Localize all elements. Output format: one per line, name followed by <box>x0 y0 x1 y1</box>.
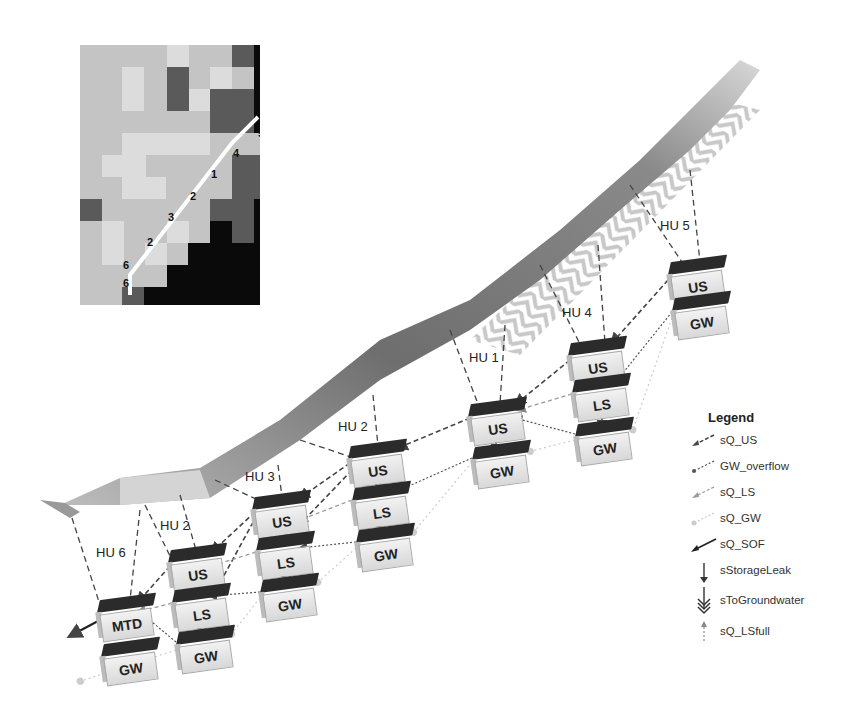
hydrologic-unit-label: HU 2 <box>160 518 190 533</box>
hydrology-diagram: 554123266 <box>0 0 844 702</box>
dotted-up-arrow-icon <box>688 619 718 643</box>
legend-item-sq-us: sQ_US <box>700 431 840 453</box>
storage-box-hu2a-gw: GW <box>176 632 232 668</box>
box-label: GW <box>277 595 303 614</box>
gray-dashed-arrow-icon <box>688 483 718 503</box>
storage-box-hu3-us: US <box>252 497 308 533</box>
box-label: GW <box>118 659 144 678</box>
legend: Legend sQ_US GW_overflow sQ_LS sQ_GW sQ_… <box>700 410 840 645</box>
storage-box-hu2b-gw: GW <box>356 530 412 566</box>
box-label: MTD <box>111 615 143 635</box>
storage-box-hu2b-us: US <box>348 446 404 482</box>
hydrologic-unit-label: HU 4 <box>562 305 592 320</box>
box-label: GW <box>592 439 618 458</box>
legend-item-sq-lsfull: sQ_LSfull <box>700 619 840 641</box>
dashed-arrow-icon <box>688 431 718 451</box>
storage-box-hu2a-us: US <box>168 550 224 586</box>
legend-item-sq-ls: sQ_LS <box>700 483 840 505</box>
legend-item-to-groundwater: sToGroundwater <box>700 587 840 615</box>
box-label: LS <box>276 554 296 572</box>
box-label: GW <box>689 313 715 332</box>
hydrologic-unit-label: HU 1 <box>469 350 499 365</box>
legend-item-sq-gw: sQ_GW <box>700 509 840 531</box>
storage-box-hu2a-ls: LS <box>172 590 228 626</box>
box-label: LS <box>372 504 392 522</box>
legend-item-gw-overflow: GW_overflow <box>700 457 840 479</box>
storage-box-hu5-gw: GW <box>672 298 728 334</box>
storage-box-hu3-ls: LS <box>256 538 312 574</box>
storage-box-hu4-gw: GW <box>575 424 631 460</box>
storage-box-hu2b-ls: LS <box>352 488 408 524</box>
down-arrow-icon <box>688 561 718 585</box>
storage-box-hu1-us: US <box>468 404 524 440</box>
storage-box-hu4-ls: LS <box>572 380 628 416</box>
hydrologic-unit-label: HU 3 <box>245 469 275 484</box>
box-label: US <box>271 513 292 532</box>
solid-arrow-icon <box>688 535 718 555</box>
storage-box-hu6-mtd: MTD <box>97 600 153 636</box>
light-dotted-arrow-icon <box>688 509 718 529</box>
hydrologic-unit-label: HU 6 <box>96 545 126 560</box>
legend-title: Legend <box>708 410 840 425</box>
river-terrain <box>60 60 760 505</box>
storage-box-hu1-gw: GW <box>472 447 528 483</box>
hydrologic-unit-label: HU 2 <box>338 419 368 434</box>
box-label: LS <box>592 396 612 414</box>
box-label: US <box>367 462 388 481</box>
storage-box-hu3-gw: GW <box>260 580 316 616</box>
box-label: LS <box>192 606 212 624</box>
dotted-arrow-icon <box>688 457 718 477</box>
triple-chevron-down-icon <box>688 587 718 615</box>
storage-box-hu6-gw: GW <box>101 644 157 680</box>
legend-item-sq-sof: sQ_SOF <box>700 535 840 557</box>
hydrologic-unit-label: HU 5 <box>660 218 690 233</box>
box-label: GW <box>193 647 219 666</box>
box-label: US <box>587 359 608 378</box>
box-label: US <box>187 566 208 585</box>
box-label: GW <box>489 462 515 481</box>
legend-item-storage-leak: sStorageLeak <box>700 561 840 583</box>
box-label: GW <box>373 545 399 564</box>
box-label: US <box>487 420 508 439</box>
